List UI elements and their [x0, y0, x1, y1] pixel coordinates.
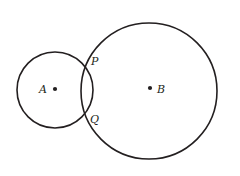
circle-a-label: A: [38, 83, 47, 96]
circle-b-label: B: [156, 83, 165, 96]
geometry-canvas: A B P Q: [0, 0, 240, 176]
geometry-figure: A B P Q: [0, 0, 240, 176]
circle-b-outline: [81, 23, 217, 159]
point-p-label: P: [90, 55, 99, 68]
point-q-label: Q: [90, 113, 99, 126]
circle-a-center-dot: [53, 87, 57, 91]
circle-b-center-dot: [148, 86, 152, 90]
